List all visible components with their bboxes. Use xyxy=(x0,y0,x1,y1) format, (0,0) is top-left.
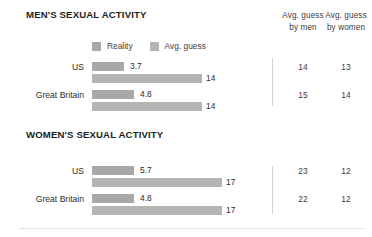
cell-avg-guess-by-men: 14 xyxy=(280,62,326,72)
bar-reality xyxy=(92,90,134,99)
cell-avg-guess-by-men: 15 xyxy=(280,90,326,100)
legend-label-reality: Reality xyxy=(107,41,133,51)
legend-item-avg-guess: Avg. guess xyxy=(150,41,206,51)
cell-avg-guess-by-men: 23 xyxy=(280,166,326,176)
bar-value-reality: 4.8 xyxy=(140,89,152,99)
bar-value-reality: 4.8 xyxy=(140,193,152,203)
bar-value-avg-guess: 17 xyxy=(226,177,235,187)
cell-avg-guess-by-women: 12 xyxy=(322,166,370,176)
bar-avg-guess xyxy=(92,206,222,215)
legend-swatch-avg-guess-icon xyxy=(150,42,159,51)
section-title-mens: MEN'S SEXUAL ACTIVITY xyxy=(26,8,176,22)
bar-value-avg-guess: 14 xyxy=(206,101,215,111)
column-divider xyxy=(272,166,273,214)
legend-item-reality: Reality xyxy=(92,41,133,51)
cell-avg-guess-by-women: 14 xyxy=(322,90,370,100)
legend-label-avg-guess: Avg. guess xyxy=(165,41,206,51)
cell-avg-guess-by-men: 22 xyxy=(280,194,326,204)
bar-reality xyxy=(92,166,134,175)
table-row: Great Britain 4.8 17 22 12 xyxy=(0,194,372,224)
bottom-dotted-rule xyxy=(20,228,364,229)
chart-legend: Reality Avg. guess xyxy=(92,41,206,51)
section-title-womens: WOMEN'S SEXUAL ACTIVITY xyxy=(26,128,176,142)
bar-reality xyxy=(92,62,124,71)
cell-avg-guess-by-women: 13 xyxy=(322,62,370,72)
table-row: US 5.7 17 23 12 xyxy=(0,166,372,196)
row-label-country: US xyxy=(0,62,84,73)
row-label-country: Great Britain xyxy=(0,90,84,101)
column-header-avg-guess-by-men: Avg. guess by men xyxy=(280,10,326,33)
bar-avg-guess xyxy=(92,74,202,83)
bar-reality xyxy=(92,194,134,203)
table-row: US 3.7 14 14 13 xyxy=(0,62,372,92)
column-header-avg-guess-by-women: Avg. guess by women xyxy=(322,10,370,33)
row-label-country: US xyxy=(0,166,84,177)
cell-avg-guess-by-women: 12 xyxy=(322,194,370,204)
bar-avg-guess xyxy=(92,178,222,187)
row-label-country: Great Britain xyxy=(0,194,84,205)
bar-value-reality: 5.7 xyxy=(140,165,152,175)
infographic-panel: Avg. guess by men Avg. guess by women ME… xyxy=(0,0,372,237)
bar-value-avg-guess: 17 xyxy=(226,205,235,215)
legend-swatch-reality-icon xyxy=(92,42,101,51)
table-row: Great Britain 4.8 14 15 14 xyxy=(0,90,372,120)
bar-avg-guess xyxy=(92,102,202,111)
bar-value-avg-guess: 14 xyxy=(206,73,215,83)
bar-value-reality: 3.7 xyxy=(130,61,142,71)
column-divider xyxy=(272,58,273,106)
